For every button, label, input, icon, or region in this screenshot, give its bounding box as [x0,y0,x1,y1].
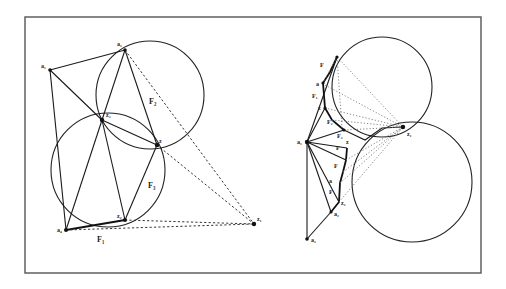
ray-z-z1 [157,145,254,224]
point-right-a2 [329,210,332,213]
edge-a1-a2 [50,50,125,70]
right-label-1: a [316,81,319,87]
right-label-9: F [334,163,338,169]
point-right-a3 [305,237,309,241]
edge-z3-z [102,120,157,145]
dotted-ray-6 [346,127,403,160]
dotted-ray-2 [325,85,403,127]
label-z: z [159,138,162,144]
right-label-12: z₂ [341,200,346,206]
point-z3 [100,118,104,122]
region-label-f1: F₁ [97,235,105,244]
dotted-ray-4 [332,120,403,127]
fan-edge-7 [307,142,331,212]
label-z3: z₃ [106,112,111,118]
fan-edge-6 [307,142,339,202]
right-label-2: F₁ [312,93,318,99]
fan-edge-1 [307,57,337,142]
right-label-7: z [346,139,349,145]
region-label-f2: F₂ [149,97,157,106]
region-label-f3: F₃ [148,181,156,190]
label-a4: a₄ [57,227,62,233]
label-z2: z₂ [117,213,122,219]
edge-a1-a4 [50,70,66,230]
geometry-diagram: a₁ a₂ z₃ z z₂ a₄ z₁ F₂ F₃ F₁ [0,0,506,289]
right-label-10: a [329,178,332,184]
edge-a2-z3 [102,50,125,120]
point-right-top [335,55,338,58]
left-lower-circle [51,113,165,227]
right-figure: F a F₁ z F₂ a₁ F₃ z F F a F z₂ a₂ a₃ z₁ [297,37,472,243]
point-a1 [48,68,52,72]
point-z1 [252,222,256,226]
dotted-ray-1 [337,57,403,127]
label-a1: a₁ [41,63,46,69]
right-label-14: a₃ [311,237,316,243]
right-label-3: z [318,105,321,111]
right-label-11: F [329,189,333,195]
edge-z3-a4 [66,120,102,230]
right-label-0: F [320,62,324,68]
edge-a3-a2 [307,212,331,239]
point-right-a [321,81,324,84]
right-label-6: F₃ [337,133,343,139]
ray-z2-z1 [125,220,254,224]
left-figure: a₁ a₂ z₃ z z₂ a₄ z₁ F₂ F₃ F₁ [41,41,262,244]
right-label-15: z₁ [407,131,412,137]
point-z2 [123,218,127,222]
right-label-13: a₂ [334,211,339,217]
label-a2: a₂ [117,41,122,47]
ray-a2-z1 [125,50,254,224]
point-right-a1 [305,140,309,144]
point-a4 [64,228,68,232]
right-lower-circle [352,122,472,242]
point-a2 [123,48,127,52]
right-label-8: F [336,145,340,151]
edge-a1-z3 [50,70,102,120]
right-label-5: a₁ [297,139,302,145]
point-right-z [323,106,326,109]
left-upper-circle [96,41,204,149]
point-right-z1 [401,125,405,129]
dotted-chord-1 [337,57,342,128]
label-z1: z₁ [257,216,262,222]
point-right-z-mid [342,128,345,131]
right-label-4: F₂ [327,119,333,125]
